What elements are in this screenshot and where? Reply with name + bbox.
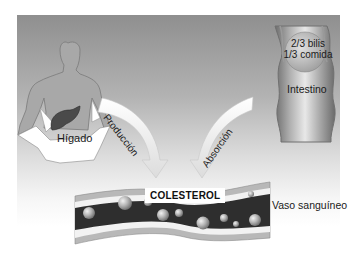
liver-label: Hígado [57, 132, 92, 144]
intestine-content-label: 2/3 bilis 1/3 comida [283, 38, 333, 60]
food-ratio-text: 1/3 comida [283, 49, 333, 60]
bile-ratio-text: 2/3 bilis [283, 38, 333, 49]
blood-vessel-label: Vaso sanguíneo [272, 199, 347, 211]
production-arrow [98, 98, 168, 178]
cholesterol-label: COLESTEROL [145, 188, 225, 203]
intestine-label: Intestino [287, 83, 327, 95]
